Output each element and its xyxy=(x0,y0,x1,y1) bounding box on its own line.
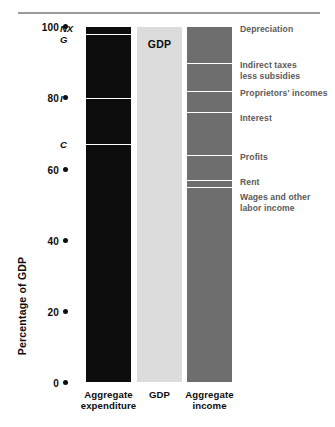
y-tick-dot xyxy=(63,309,68,314)
callout-profits: Profits xyxy=(240,152,268,163)
y-tick-dot xyxy=(63,238,68,243)
y-tick-label: 0 xyxy=(53,378,59,389)
y-tick-label: 40 xyxy=(47,236,59,247)
y-tick-label: 100 xyxy=(42,22,59,33)
callout-interest: Interest xyxy=(240,113,272,124)
category-label-aggregate-income: Aggregate income xyxy=(177,389,242,411)
y-tick-0: 0 xyxy=(10,377,68,389)
segment-profits xyxy=(187,155,232,180)
segment-c xyxy=(86,144,131,382)
segment-depreciation xyxy=(187,27,232,63)
y-tick-60: 60 xyxy=(10,164,68,176)
segment-wages xyxy=(187,187,232,382)
bar-aggregate-income xyxy=(187,27,232,382)
bar-gdp: GDP xyxy=(137,27,182,382)
chart-figure: 100 80 60 40 20 0 Percentage of GDP NX G… xyxy=(0,0,335,427)
category-label-aggregate-expenditure: Aggregate expenditure xyxy=(71,389,146,411)
callout-rent: Rent xyxy=(240,177,260,188)
callout-depreciation: Depreciation xyxy=(240,24,293,35)
segment-nx xyxy=(86,27,131,34)
top-divider-rule xyxy=(18,12,320,14)
segment-i xyxy=(86,98,131,144)
series-label-nx: NX xyxy=(60,23,86,34)
y-tick-label: 20 xyxy=(47,307,59,318)
category-label-gdp: GDP xyxy=(137,389,182,400)
bar-aggregate-expenditure xyxy=(86,27,131,382)
y-tick-label: 80 xyxy=(47,93,59,104)
series-label-i: I xyxy=(60,93,86,104)
y-tick-label: 60 xyxy=(47,165,59,176)
y-tick-dot xyxy=(63,167,68,172)
segment-g xyxy=(86,34,131,98)
segment-indirect-taxes xyxy=(187,63,232,91)
segment-gdp xyxy=(137,27,182,382)
y-axis-title: Percentage of GDP xyxy=(16,246,28,366)
gdp-inner-label: GDP xyxy=(137,38,182,50)
callout-indirect-taxes: Indirect taxes less subsidies xyxy=(240,60,300,81)
segment-proprietors-incomes xyxy=(187,91,232,112)
callout-wages: Wages and other labor income xyxy=(240,192,310,213)
callout-proprietors: Proprietors' incomes xyxy=(240,88,328,99)
series-label-c: C xyxy=(60,139,86,150)
segment-rent xyxy=(187,180,232,187)
series-label-g: G xyxy=(60,34,86,45)
y-tick-dot xyxy=(63,380,68,385)
segment-interest xyxy=(187,112,232,155)
